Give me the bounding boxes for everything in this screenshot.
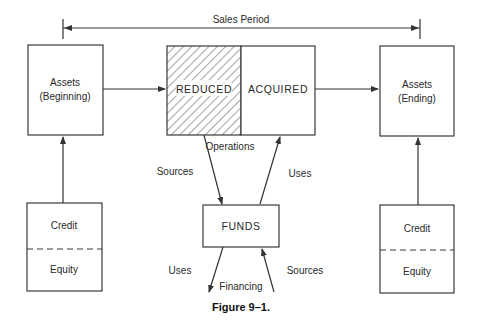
assets-ending-subtitle: (Ending) [398,93,436,104]
left-claims-box: Credit Equity [27,203,102,291]
assets-beginning-title: Assets [50,77,80,88]
acquired-label: ACQUIRED [248,83,308,95]
left-equity-label: Equity [50,264,78,275]
funds-label: FUNDS [221,220,260,232]
reduced-label: REDUCED [176,83,232,95]
left-credit-label: Credit [51,220,78,231]
period-label: Sales Period [213,14,270,25]
operations-box: REDUCED ACQUIRED [167,46,315,135]
assets-ending-title: Assets [402,79,432,90]
right-credit-label: Credit [404,223,431,234]
financing-sources-arrow [262,249,274,292]
right-claims-box: Credit Equity [380,205,454,293]
financing-uses-label: Uses [169,265,192,276]
financing-label: Financing [219,281,262,292]
period-left-arrow-icon [64,25,72,31]
period-right-arrow-icon [411,25,419,31]
operations-label: Operations [206,141,255,152]
assets-beginning-box: Assets (Beginning) [28,45,103,135]
operations-sources-label: Sources [157,166,194,177]
sales-period-bracket: Sales Period [63,14,420,39]
funds-box: FUNDS [203,205,279,247]
operations-uses-label: Uses [289,168,312,179]
figure-caption: Figure 9–1. [212,301,270,313]
operations-uses-arrow [260,137,280,204]
assets-beginning-subtitle: (Beginning) [39,91,90,102]
assets-ending-box: Assets (Ending) [380,46,454,136]
financing-sources-label: Sources [287,265,324,276]
funds-flow-diagram: Sales Period Assets (Beginning) REDUCED … [0,0,478,323]
right-equity-label: Equity [403,266,431,277]
